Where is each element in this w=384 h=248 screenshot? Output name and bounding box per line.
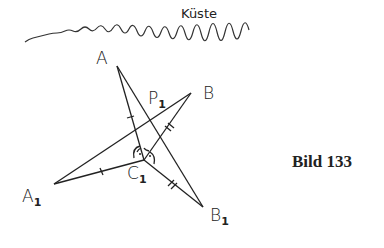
coast-label: Küste — [181, 6, 217, 21]
segment-C1-B1 — [144, 160, 203, 207]
right-angle-arc — [137, 148, 141, 152]
point-label-B: B — [203, 83, 214, 103]
right-angle-dot — [149, 155, 151, 157]
point-label-A: A — [96, 48, 108, 68]
geometry-figure: Küste A B P1 C1 A1 B1 Bild 133 — [0, 0, 384, 248]
point-label-P1: P1 — [148, 88, 166, 111]
point-label-A1: A1 — [22, 186, 41, 209]
right-angle-arc — [150, 152, 155, 164]
figure-caption: Bild 133 — [292, 152, 352, 172]
figure-drawing — [0, 0, 384, 248]
right-angle-arc — [134, 146, 140, 158]
segment-A1-B — [54, 93, 191, 184]
point-label-B1: B1 — [210, 205, 229, 228]
coastline — [25, 23, 249, 42]
right-angle-dot — [139, 153, 141, 155]
point-label-C1: C1 — [127, 163, 147, 186]
tick-mark — [127, 116, 134, 118]
right-angle-arc — [144, 148, 149, 151]
